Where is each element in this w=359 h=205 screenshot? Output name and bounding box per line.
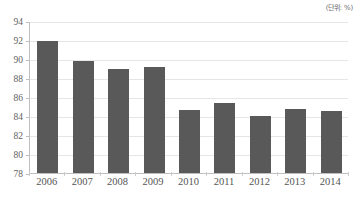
x-axis-tick-label: 2008: [107, 176, 128, 187]
x-axis-tick-label: 2012: [249, 176, 270, 187]
bar: [108, 69, 129, 174]
bar: [321, 111, 342, 173]
x-axis-tick-mark: [29, 172, 30, 176]
x-axis-tick-mark: [64, 172, 65, 176]
bar: [285, 109, 306, 173]
x-axis-tick-mark: [313, 172, 314, 176]
y-axis-tick-labels: 788082848688909294: [0, 22, 27, 174]
y-axis-tick-label: 80: [14, 150, 24, 160]
plot-area: [29, 22, 348, 174]
x-axis-tick-labels: 200620072008200920102011201220132014: [29, 176, 348, 196]
y-axis-tick-label: 78: [14, 169, 24, 179]
bar: [37, 41, 58, 173]
x-axis-tick-label: 2006: [36, 176, 57, 187]
y-axis-tick-label: 92: [14, 36, 24, 46]
x-axis-tick-mark: [348, 172, 349, 176]
bar: [250, 116, 271, 173]
x-axis-tick-label: 2010: [178, 176, 199, 187]
bar: [214, 103, 235, 173]
x-axis-tick-label: 2009: [143, 176, 164, 187]
x-axis-tick-label: 2014: [320, 176, 341, 187]
y-axis-tick-label: 82: [14, 131, 24, 141]
x-axis-tick-mark: [277, 172, 278, 176]
y-axis-tick-label: 84: [14, 112, 24, 122]
x-axis-tick-mark: [206, 172, 207, 176]
y-axis-tick-label: 88: [14, 74, 24, 84]
y-axis-tick-label: 86: [14, 93, 24, 103]
x-axis-tick-label: 2011: [214, 176, 235, 187]
y-axis-tick-label: 90: [14, 55, 24, 65]
unit-label: (단위: %): [326, 2, 353, 12]
bars-layer: [30, 22, 348, 173]
bar: [73, 61, 94, 173]
x-axis-tick-mark: [242, 172, 243, 176]
x-axis-tick-label: 2007: [72, 176, 93, 187]
bar-chart: (단위: %) 788082848688909294 2006200720082…: [0, 0, 359, 205]
bar: [144, 67, 165, 173]
bar: [179, 110, 200, 173]
y-axis-tick-label: 94: [14, 17, 24, 27]
x-axis-tick-mark: [100, 172, 101, 176]
x-axis-tick-mark: [135, 172, 136, 176]
x-axis-tick-mark: [171, 172, 172, 176]
x-axis-tick-label: 2013: [284, 176, 305, 187]
